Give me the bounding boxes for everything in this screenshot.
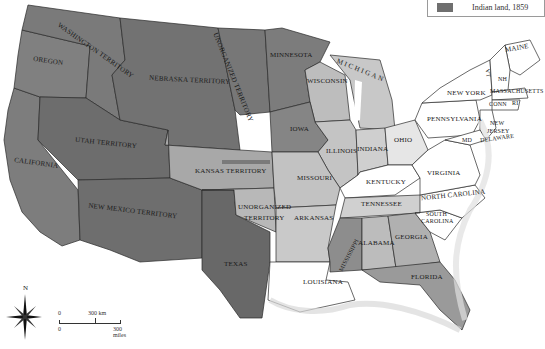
legend-swatch-indian-land — [437, 3, 453, 12]
label-alabama: ALABAMA — [358, 240, 395, 247]
label-florida: FLORIDA — [411, 274, 443, 281]
label-arkansas: ARKANSAS — [294, 215, 333, 222]
label-nh: NH — [498, 76, 507, 82]
label-minnesota: MINNESOTA — [270, 52, 312, 59]
scale-bar: 0 300 km 0 300 miles — [58, 318, 128, 344]
compass-rose-icon: N — [4, 282, 44, 342]
label-georgia: GEORGIA — [395, 234, 428, 241]
label-tennessee: TENNESSEE — [361, 201, 402, 208]
label-iowa: IOWA — [290, 126, 309, 133]
label-texas: TEXAS — [224, 261, 248, 268]
label-illinois: ILLINOIS — [326, 148, 357, 155]
label-kentucky: KENTUCKY — [366, 179, 406, 186]
label-south-carolina-1: SOUTH — [426, 211, 447, 217]
label-kansas-territory: KANSAS TERRITORY — [195, 168, 267, 175]
label-virginia: VIRGINIA — [427, 170, 460, 177]
label-md: MD — [462, 137, 472, 143]
label-unorganized-territory-south-2: TERRITORY — [244, 215, 285, 222]
label-ohio: OHIO — [394, 137, 412, 144]
label-new-york: NEW YORK — [447, 90, 486, 97]
label-ri: RI — [512, 100, 518, 106]
scale-km-end: 300 km — [88, 310, 106, 316]
label-south-carolina-2: CAROLINA — [421, 218, 454, 224]
scale-km-tick — [95, 318, 96, 323]
scale-line — [59, 320, 121, 324]
scale-mi-start: 0 — [58, 326, 61, 332]
label-pennsylvania: PENNSYLVANIA — [427, 116, 482, 123]
compass-north-label: N — [23, 284, 28, 292]
label-conn: CONN — [489, 101, 507, 107]
label-wisconsin: WISCONSIN — [307, 78, 348, 85]
label-louisiana: LOUISIANA — [303, 279, 343, 286]
scale-km-start: 0 — [58, 310, 61, 316]
map-legend: Indian land, 1859 — [427, 0, 545, 17]
legend-label-indian-land: Indian land, 1859 — [472, 3, 528, 12]
label-unorganized-territory-south-1: UNORGANIZED — [238, 204, 291, 211]
kansas-indian-band — [222, 160, 270, 164]
label-vt: VT — [485, 68, 492, 77]
label-missouri: MISSOURI — [297, 175, 332, 182]
label-massachusetts: MASSACHUSETTS — [490, 88, 544, 94]
scale-mi-end: 300 miles — [113, 326, 128, 338]
label-indiana: INDIANA — [357, 146, 388, 153]
region-new-mexico-territory — [78, 178, 202, 262]
label-new-jersey-1: NEW — [490, 120, 504, 126]
